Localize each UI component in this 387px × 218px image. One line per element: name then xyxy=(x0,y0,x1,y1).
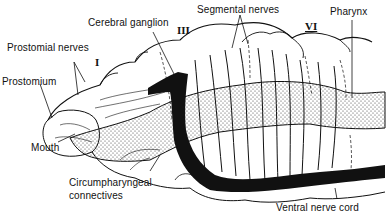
pharynx xyxy=(70,81,385,161)
label-ventral-nerve-cord: Ventral nerve cord xyxy=(276,202,359,213)
label-prostomium: Prostomium xyxy=(2,76,56,87)
label-prostomial-nerves: Prostomial nerves xyxy=(7,42,89,53)
segment-numeral-1: I xyxy=(95,56,99,68)
leader-segmental-1 xyxy=(232,15,240,48)
worm-diagram xyxy=(0,0,387,218)
leader-prostomial-1 xyxy=(74,62,85,82)
label-segmental-nerves: Segmental nerves xyxy=(197,4,279,15)
label-mouth: Mouth xyxy=(31,142,59,153)
segment-numeral-3: III xyxy=(177,24,190,36)
leader-cerebral-ganglion xyxy=(153,32,174,74)
leader-prostomial-2 xyxy=(74,62,78,95)
label-circumpharyngeal: Circumpharyngeal xyxy=(69,177,152,188)
label-pharynx: Pharynx xyxy=(330,6,367,17)
leader-ventral-nerve-cord xyxy=(335,188,337,199)
label-cerebral-ganglion: Cerebral ganglion xyxy=(88,17,169,28)
segment-numeral-6: VI xyxy=(305,20,317,32)
leader-prostomium xyxy=(40,84,52,118)
label-connectives: connectives xyxy=(69,190,123,201)
